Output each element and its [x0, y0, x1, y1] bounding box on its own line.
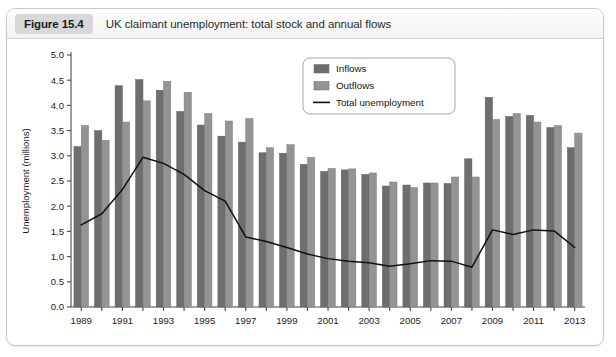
y-tick-label: 1.0 — [51, 251, 64, 262]
bar-inflows-1992 — [136, 80, 143, 307]
bar-inflows-1994 — [177, 111, 184, 307]
bar-inflows-2013 — [567, 148, 574, 307]
y-tick-label: 4.5 — [51, 75, 64, 86]
x-tick-label: 2005 — [400, 315, 421, 326]
bar-outflows-2002 — [349, 169, 356, 307]
bar-inflows-2001 — [321, 171, 328, 307]
bar-outflows-2010 — [513, 113, 520, 307]
bar-inflows-1996 — [218, 136, 225, 307]
y-tick-label: 0.0 — [51, 301, 64, 312]
x-tick-label: 2007 — [441, 315, 462, 326]
bar-outflows-1999 — [287, 145, 294, 307]
bar-inflows-1993 — [156, 90, 163, 307]
bar-inflows-2003 — [362, 174, 369, 307]
figure-number-badge: Figure 15.4 — [15, 14, 93, 34]
legend-swatch-outflows — [314, 82, 329, 91]
bar-outflows-1993 — [164, 81, 171, 307]
bar-outflows-2008 — [472, 177, 479, 307]
bar-inflows-1989 — [74, 147, 81, 307]
bar-outflows-1995 — [205, 113, 212, 307]
bar-inflows-2004 — [382, 186, 389, 307]
bar-inflows-1990 — [95, 131, 102, 307]
bar-inflows-2011 — [526, 115, 533, 307]
bar-outflows-2011 — [534, 122, 541, 307]
x-tick-label: 1993 — [153, 315, 174, 326]
bar-inflows-2005 — [403, 185, 410, 307]
bar-outflows-2013 — [575, 133, 582, 307]
bar-outflows-2000 — [307, 157, 314, 307]
bar-inflows-2002 — [341, 170, 348, 307]
bar-inflows-2006 — [424, 183, 431, 307]
bar-inflows-2000 — [300, 164, 307, 307]
y-tick-label: 3.0 — [51, 150, 64, 161]
bar-outflows-2009 — [492, 120, 499, 307]
bar-outflows-2005 — [410, 188, 417, 307]
chart-legend: InflowsOutflowsTotal unemployment — [303, 58, 455, 114]
x-tick-label: 1999 — [276, 315, 297, 326]
chart-plot-area: 0.00.51.01.52.02.53.03.54.04.55.01989199… — [7, 39, 603, 346]
y-tick-label: 0.5 — [51, 276, 64, 287]
x-tick-label: 2013 — [564, 315, 585, 326]
bar-outflows-1991 — [122, 122, 129, 307]
bar-inflows-1999 — [280, 153, 287, 307]
x-tick-label: 2009 — [482, 315, 503, 326]
bar-inflows-2012 — [547, 128, 554, 307]
figure-caption-bar: Figure 15.4 UK claimant unemployment: to… — [7, 9, 603, 39]
y-tick-label: 2.5 — [51, 175, 64, 186]
bar-inflows-2007 — [444, 184, 451, 307]
legend-swatch-inflows — [314, 65, 329, 74]
bar-outflows-1989 — [81, 126, 88, 307]
bar-outflows-1996 — [225, 121, 232, 307]
bar-outflows-2001 — [328, 168, 335, 307]
bar-outflows-1997 — [246, 119, 253, 308]
bar-inflows-2008 — [465, 159, 472, 307]
x-tick-label: 1997 — [235, 315, 256, 326]
x-tick-label: 2011 — [523, 315, 544, 326]
x-tick-label: 1991 — [112, 315, 133, 326]
y-tick-label: 3.5 — [51, 125, 64, 136]
x-tick-label: 1995 — [194, 315, 215, 326]
bar-inflows-2009 — [485, 97, 492, 307]
bar-outflows-2004 — [390, 182, 397, 307]
y-tick-label: 1.5 — [51, 226, 64, 237]
y-axis-title: Unemployment (millions) — [20, 128, 31, 234]
y-tick-label: 4.0 — [51, 100, 64, 111]
bar-outflows-2003 — [369, 173, 376, 307]
bar-outflows-2007 — [451, 177, 458, 307]
bar-outflows-2012 — [554, 126, 561, 307]
bar-outflows-1994 — [184, 92, 191, 307]
bar-inflows-2010 — [506, 116, 513, 307]
figure-caption-text: UK claimant unemployment: total stock an… — [106, 18, 392, 30]
unemployment-chart-svg: 0.00.51.01.52.02.53.03.54.04.55.01989199… — [7, 39, 605, 346]
y-tick-label: 5.0 — [51, 49, 64, 60]
bar-outflows-1992 — [143, 101, 150, 307]
bar-inflows-1998 — [259, 153, 266, 307]
bar-outflows-1990 — [102, 140, 109, 307]
y-tick-label: 2.0 — [51, 201, 64, 212]
legend-label-outflows: Outflows — [336, 80, 374, 91]
bar-inflows-1995 — [197, 125, 204, 307]
bar-inflows-1997 — [238, 142, 245, 307]
bar-outflows-1998 — [266, 148, 273, 307]
x-tick-label: 2001 — [317, 315, 338, 326]
legend-label-total-unemployment: Total unemployment — [336, 97, 424, 108]
bar-outflows-2006 — [431, 183, 438, 307]
figure-card: Figure 15.4 UK claimant unemployment: to… — [6, 8, 604, 346]
legend-label-inflows: Inflows — [336, 63, 367, 74]
x-tick-label: 2003 — [358, 315, 379, 326]
x-tick-label: 1989 — [71, 315, 92, 326]
